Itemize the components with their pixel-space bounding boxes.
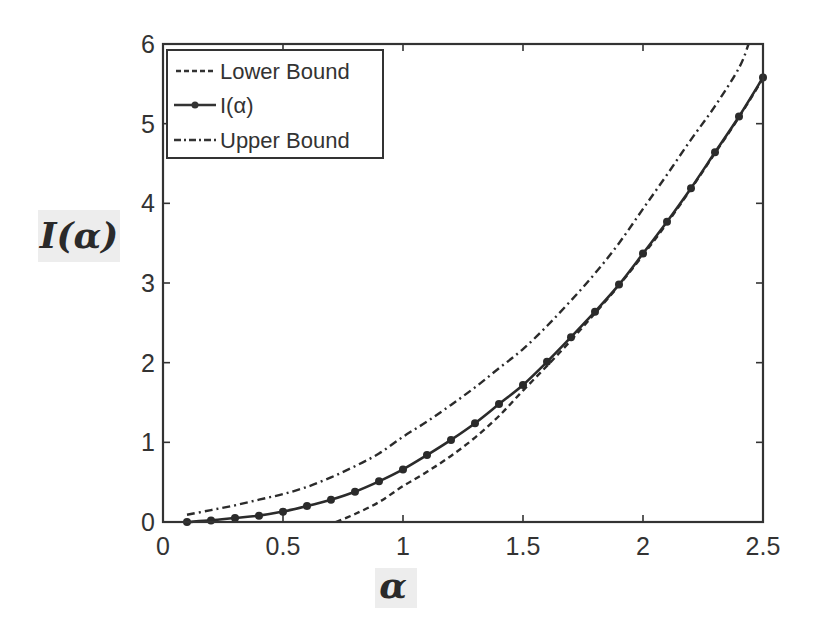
- data-point-marker: [423, 451, 431, 459]
- series-line-0: [336, 78, 763, 522]
- data-point-marker: [231, 514, 239, 522]
- y-tick-label: 0: [141, 508, 155, 536]
- data-point-marker: [375, 477, 383, 485]
- x-tick-label: 1: [396, 532, 410, 560]
- data-point-marker: [279, 508, 287, 516]
- y-tick-label: 5: [141, 110, 155, 138]
- y-tick-label: 4: [141, 189, 155, 217]
- x-tick-label: 2: [636, 532, 650, 560]
- data-point-marker: [663, 218, 671, 226]
- data-point-marker: [711, 148, 719, 156]
- data-point-marker: [255, 512, 263, 520]
- data-point-marker: [399, 465, 407, 473]
- x-tick-label: 2.5: [746, 532, 781, 560]
- data-point-marker: [567, 333, 575, 341]
- data-point-marker: [639, 250, 647, 258]
- data-point-marker: [303, 502, 311, 510]
- y-tick-label: 6: [141, 30, 155, 58]
- x-tick-label: 0: [156, 532, 170, 560]
- data-point-marker: [351, 488, 359, 496]
- y-axis-title: I(α): [39, 214, 119, 256]
- data-point-marker: [615, 281, 623, 289]
- data-point-marker: [519, 381, 527, 389]
- dot-marker-icon: [192, 102, 199, 109]
- data-point-marker: [495, 400, 503, 408]
- data-point-marker: [327, 496, 335, 504]
- y-tick-label: 1: [141, 428, 155, 456]
- x-tick-label: 1.5: [506, 532, 541, 560]
- y-tick-label: 3: [141, 269, 155, 297]
- data-point-marker: [543, 358, 551, 366]
- data-point-marker: [591, 308, 599, 316]
- legend-label: I(α): [220, 93, 253, 118]
- chart: I(α) α 00.511.522.5 0123456 Lower Bound …: [0, 0, 828, 633]
- legend: Lower Bound I(α) Upper Bound: [167, 50, 383, 158]
- legend-label: Upper Bound: [220, 128, 350, 153]
- data-point-marker: [471, 419, 479, 427]
- x-axis-title: α: [379, 564, 407, 606]
- data-point-marker: [687, 184, 695, 192]
- x-tick-label: 0.5: [266, 532, 301, 560]
- data-point-marker: [735, 112, 743, 120]
- legend-label: Lower Bound: [220, 59, 350, 84]
- data-point-marker: [207, 516, 215, 524]
- data-point-marker: [447, 436, 455, 444]
- y-tick-label: 2: [141, 349, 155, 377]
